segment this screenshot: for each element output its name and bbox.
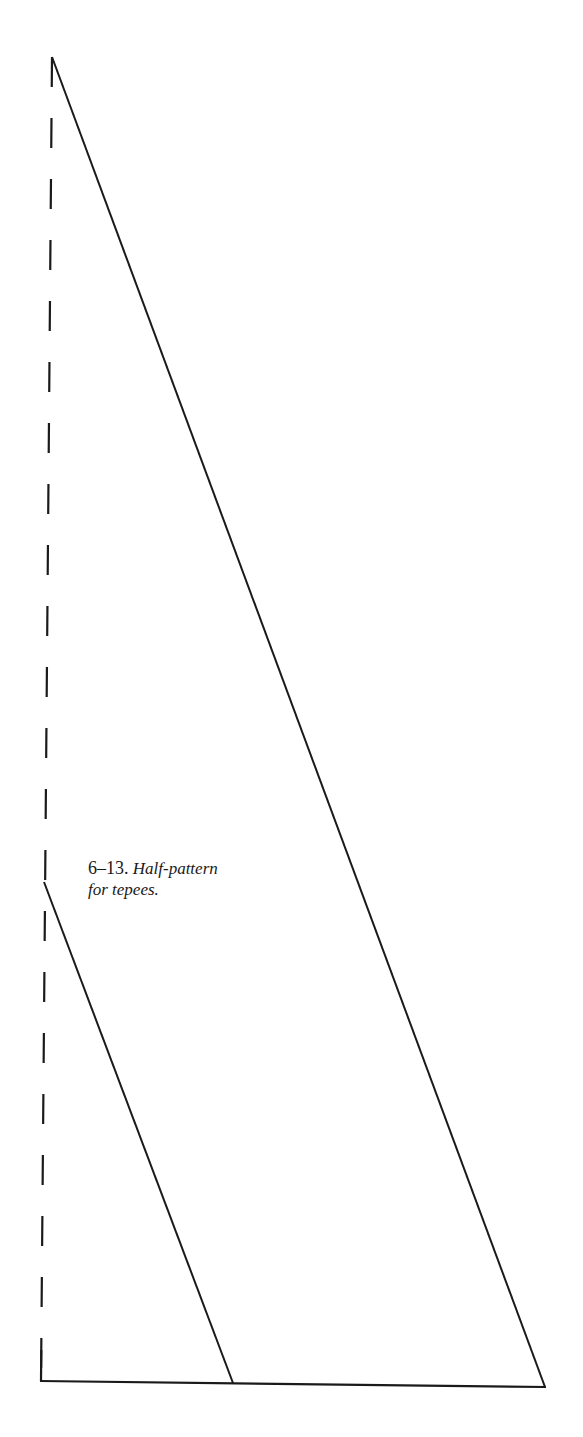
fold-line-dashed [41,57,52,1381]
small-triangle-edge [44,882,233,1383]
caption-title: Half-pattern [133,859,218,878]
baseline [40,1381,546,1387]
large-triangle-edge [52,57,545,1387]
caption-line-2: for tepees. [88,879,218,900]
caption-line-1: 6–13. Half-pattern [88,858,218,879]
figure-number: 6–13. [88,858,129,878]
tepee-pattern-diagram [0,0,583,1437]
figure-caption: 6–13. Half-pattern for tepees. [88,858,218,900]
